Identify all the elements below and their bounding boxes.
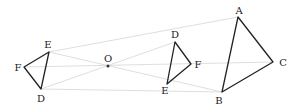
ray-f-o-c <box>24 62 273 67</box>
label-right-a: A <box>234 5 243 16</box>
center-point-o <box>107 65 110 68</box>
middle-triangle <box>167 42 191 84</box>
label-center-o: O <box>104 53 112 64</box>
ray-d-o-b <box>41 89 222 92</box>
diagram-svg: O E F D D F E A C B <box>0 0 298 111</box>
label-middle-f: F <box>195 59 202 70</box>
ray-e-o-a <box>49 17 238 52</box>
right-triangle <box>222 17 273 92</box>
left-triangle <box>24 52 49 89</box>
label-left-d: D <box>37 93 45 104</box>
label-left-f: F <box>15 62 22 73</box>
homothety-diagram: O E F D D F E A C B <box>0 0 298 111</box>
label-middle-d: D <box>171 29 179 40</box>
label-right-c: C <box>279 57 287 68</box>
label-left-e: E <box>44 39 51 50</box>
ray-e-o-e <box>49 52 222 92</box>
label-middle-e: E <box>161 85 168 96</box>
label-right-b: B <box>215 95 222 106</box>
